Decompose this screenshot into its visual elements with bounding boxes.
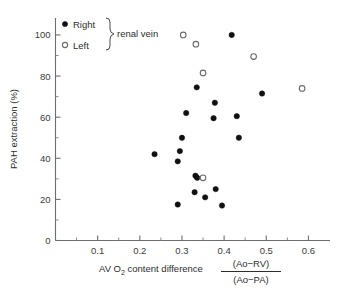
legend-label-right: Right (73, 19, 96, 30)
data-point-right (192, 189, 197, 194)
data-point-right (212, 100, 217, 105)
x-tick-label: 0.2 (133, 245, 146, 256)
y-tick-label: 0 (45, 235, 50, 246)
x-tick-label: 0.5 (260, 245, 273, 256)
data-point-right (229, 32, 234, 37)
data-point-right (194, 85, 199, 90)
data-point-right (183, 110, 188, 115)
x-tick-label: 0.1 (91, 245, 104, 256)
y-axis-ticks (56, 35, 61, 241)
legend: Right Left renal vein (62, 18, 158, 51)
data-point-left (180, 32, 186, 38)
data-point-right (194, 175, 199, 180)
x-axis-fraction-numerator: (Ao−RV) (233, 258, 270, 269)
y-tick-label: 40 (40, 153, 51, 164)
data-point-right (234, 113, 239, 118)
data-point-right (177, 148, 182, 153)
y-axis-tick-labels: 020406080100 (35, 29, 51, 246)
legend-brace-icon (106, 18, 114, 50)
data-point-right (202, 195, 207, 200)
series-left-renal-vein (180, 32, 304, 180)
y-tick-label: 100 (35, 29, 51, 40)
x-axis-ticks (77, 236, 309, 241)
x-tick-label: 0.4 (218, 245, 231, 256)
data-point-right (179, 135, 184, 140)
data-point-left (193, 41, 199, 47)
scatter-plot-figure: 0.10.20.30.40.50.6 020406080100 PAH extr… (0, 0, 342, 293)
x-axis-tick-labels: 0.10.20.30.40.50.6 (91, 245, 315, 256)
x-axis-label-text: AV O2 content difference (99, 263, 203, 276)
legend-bracket-label: renal vein (117, 28, 158, 39)
data-point-right (259, 91, 264, 96)
y-tick-label: 80 (40, 71, 51, 82)
x-axis-label-rest: content difference (125, 263, 203, 274)
data-point-right (152, 151, 157, 156)
y-axis-label: PAH extraction (%) (8, 89, 19, 169)
data-point-right (219, 203, 224, 208)
data-point-right (175, 202, 180, 207)
legend-marker-right (62, 21, 67, 26)
axes-group (56, 18, 331, 241)
legend-label-left: Left (73, 40, 89, 51)
data-point-left (299, 86, 305, 92)
plot-canvas: 0.10.20.30.40.50.6 020406080100 PAH extr… (0, 0, 342, 293)
y-tick-label: 60 (40, 112, 51, 123)
data-point-left (251, 54, 257, 60)
x-axis-label-main: AV O (99, 263, 121, 274)
data-point-right (236, 135, 241, 140)
series-right-renal-vein (152, 32, 265, 208)
data-point-right (175, 159, 180, 164)
y-tick-label: 20 (40, 194, 51, 205)
x-axis-fraction-denominator: (Ao−PA) (233, 274, 268, 285)
data-point-left (200, 70, 206, 76)
x-tick-label: 0.3 (175, 245, 188, 256)
legend-marker-left (62, 42, 67, 47)
x-tick-label: 0.6 (302, 245, 315, 256)
data-point-right (211, 115, 216, 120)
data-point-left (200, 175, 206, 181)
x-axis-label-group: AV O2 content difference (Ao−RV) (Ao−PA) (99, 258, 281, 285)
data-point-right (213, 186, 218, 191)
